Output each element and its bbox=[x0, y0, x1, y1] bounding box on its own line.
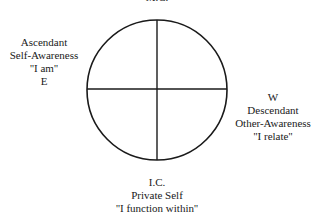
descendant-direction: W bbox=[226, 91, 320, 104]
ic-label: I.C. Private Self ''I function within'' bbox=[97, 176, 217, 215]
ic-subtitle: Private Self bbox=[97, 189, 217, 202]
descendant-title: Descendant bbox=[226, 104, 320, 117]
ascendant-title: Ascendant bbox=[0, 36, 88, 49]
ascendant-label: Ascendant Self-Awareness ''I am'' E bbox=[0, 36, 88, 88]
descendant-subtitle: Other-Awareness bbox=[226, 117, 320, 130]
house-axes-diagram: M.C. Ascendant Self-Awareness ''I am'' E… bbox=[0, 0, 320, 218]
mc-label: M.C. bbox=[117, 0, 197, 4]
descendant-quote: ''I relate'' bbox=[226, 130, 320, 143]
ic-title: I.C. bbox=[97, 176, 217, 189]
descendant-label: W Descendant Other-Awareness ''I relate'… bbox=[226, 91, 320, 143]
ascendant-quote: ''I am'' bbox=[0, 62, 88, 75]
ascendant-direction: E bbox=[0, 75, 88, 88]
ascendant-subtitle: Self-Awareness bbox=[0, 49, 88, 62]
ic-quote: ''I function within'' bbox=[97, 202, 217, 215]
mc-text: M.C. bbox=[117, 0, 197, 4]
